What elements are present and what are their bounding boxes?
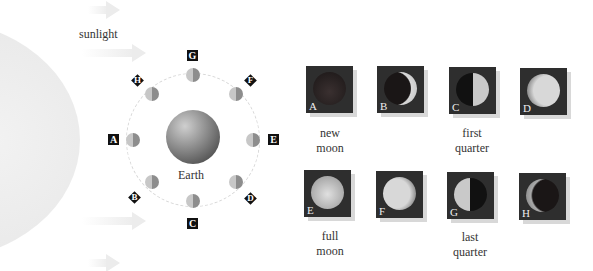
moon-first-quarter-icon — [456, 73, 489, 106]
orbit-label-d: D — [244, 192, 257, 205]
orbit-label-a: A — [108, 134, 119, 145]
orbit-label-h: H — [131, 74, 144, 87]
phase-tile-a: A — [306, 66, 353, 113]
orbit-label-b: B — [128, 191, 141, 204]
orbit-moon-c — [186, 194, 200, 208]
orbit-moon-g — [186, 68, 200, 82]
sun — [0, 20, 80, 260]
moon-new-icon — [313, 72, 346, 105]
orbit-label-f: F — [244, 74, 257, 87]
earth-label: Earth — [178, 168, 204, 183]
phase-tile-g: G — [447, 172, 494, 219]
caption-first-quarter: firstquarter — [447, 126, 497, 156]
orbit-moon-d — [229, 175, 243, 189]
phase-tile-c: C — [449, 67, 496, 114]
orbit-moon-f — [229, 87, 243, 101]
sunlight-arrow — [88, 257, 120, 269]
moon-waning-crescent-icon — [526, 179, 559, 212]
phase-tile-d: D — [520, 68, 567, 115]
sunlight-arrow — [82, 47, 148, 59]
phase-tile-h: H — [519, 173, 566, 220]
sunlight-arrow — [88, 4, 120, 16]
moon-waxing-gibbous-icon — [527, 74, 560, 107]
orbit-label-g: G — [187, 50, 198, 61]
sunlight-label: sunlight — [79, 27, 118, 42]
orbit-moon-e — [246, 133, 260, 147]
caption-last-quarter: lastquarter — [445, 230, 495, 260]
orbit-moon-b — [145, 175, 159, 189]
moon-full-icon — [311, 176, 344, 209]
moon-last-quarter-icon — [454, 178, 487, 211]
phase-tile-e: E — [304, 170, 351, 217]
orbit-moon-h — [145, 87, 159, 101]
caption-new-moon: newmoon — [310, 126, 350, 156]
earth-globe — [166, 110, 220, 164]
sunlight-arrow — [82, 215, 148, 227]
orbit-label-c: C — [187, 218, 198, 229]
caption-full-moon: fullmoon — [310, 229, 350, 259]
orbit-moon-a — [126, 133, 140, 147]
moon-waxing-crescent-icon — [384, 72, 417, 105]
phase-tile-f: F — [376, 171, 423, 218]
moon-waning-gibbous-icon — [383, 177, 416, 210]
phase-tile-b: B — [377, 66, 424, 113]
orbit-label-e: E — [268, 134, 279, 145]
